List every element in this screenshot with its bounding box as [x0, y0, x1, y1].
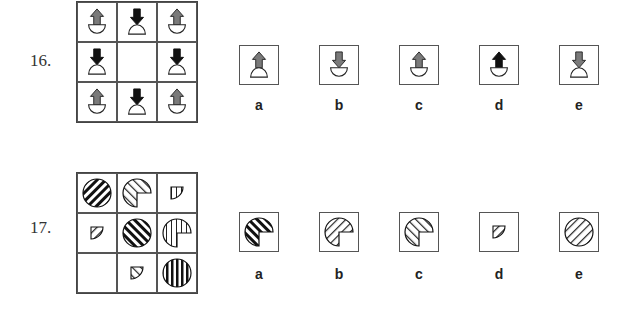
three-quarter-circle-hatched-icon [323, 216, 355, 248]
three-quarter-circle-hatched-icon [121, 177, 153, 209]
option-label-17-a: a [240, 266, 278, 282]
grid17-cell-r3c3 [157, 253, 197, 293]
grid17-cell-r1c3 [157, 173, 197, 213]
option-16-a[interactable] [239, 45, 279, 85]
option-16-c[interactable] [399, 45, 439, 85]
option-17-e[interactable] [559, 212, 599, 252]
puzzle-grid-17 [76, 172, 198, 294]
option-label-16-d: d [480, 97, 518, 113]
arrow-up-gray-cup-icon [83, 6, 111, 38]
option-17-b[interactable] [319, 212, 359, 252]
arrow-up-gray-cup-icon [405, 49, 433, 81]
grid16-cell-r1c2 [117, 2, 157, 42]
question-number-16: 16. [30, 51, 51, 71]
option-label-16-b: b [320, 97, 358, 113]
three-quarter-circle-hatched-icon [243, 216, 275, 248]
puzzle-grid-16 [76, 1, 198, 123]
grid17-cell-r3c2 [117, 253, 157, 293]
option-label-16-a: a [240, 97, 278, 113]
quarter-circle-hatched-icon [81, 217, 113, 249]
quarter-circle-hatched-icon [121, 257, 153, 289]
grid16-cell-r3c2 [117, 82, 157, 122]
grid16-cell-r1c3 [157, 2, 197, 42]
arrow-up-gray-cup-icon [163, 86, 191, 118]
option-label-17-e: e [560, 266, 598, 282]
arrow-down-black-dome-icon [123, 86, 151, 118]
option-label-17-b: b [320, 266, 358, 282]
three-quarter-circle-hatched-icon [403, 216, 435, 248]
grid17-cell-r2c2 [117, 213, 157, 253]
full-circle-hatched-icon [81, 177, 113, 209]
arrow-down-black-dome-icon [163, 46, 191, 78]
grid16-cell-r2c3 [157, 42, 197, 82]
option-label-17-d: d [480, 266, 518, 282]
grid17-cell-missing [77, 253, 117, 293]
option-17-c[interactable] [399, 212, 439, 252]
option-label-17-c: c [400, 266, 438, 282]
option-16-e[interactable] [559, 45, 599, 85]
grid16-cell-missing [117, 42, 157, 82]
arrow-up-gray-dome-icon [245, 49, 273, 81]
full-circle-hatched-icon [121, 217, 153, 249]
option-16-b[interactable] [319, 45, 359, 85]
arrow-up-gray-cup-icon [163, 6, 191, 38]
quarter-circle-hatched-icon [483, 216, 515, 248]
full-circle-hatched-icon [563, 216, 595, 248]
grid17-cell-r2c3 [157, 213, 197, 253]
grid17-cell-r1c1 [77, 173, 117, 213]
option-label-16-e: e [560, 97, 598, 113]
option-label-16-c: c [400, 97, 438, 113]
arrow-down-gray-dome-icon [565, 49, 593, 81]
arrow-down-gray-cup-icon [325, 49, 353, 81]
grid16-cell-r3c3 [157, 82, 197, 122]
grid16-cell-r1c1 [77, 2, 117, 42]
full-circle-hatched-icon [161, 257, 193, 289]
grid16-cell-r3c1 [77, 82, 117, 122]
arrow-up-black-cup-icon [485, 49, 513, 81]
three-quarter-circle-hatched-icon [161, 217, 193, 249]
question-number-17: 17. [30, 218, 51, 238]
arrow-up-gray-cup-icon [83, 86, 111, 118]
option-17-a[interactable] [239, 212, 279, 252]
grid17-cell-r2c1 [77, 213, 117, 253]
option-16-d[interactable] [479, 45, 519, 85]
grid16-cell-r2c1 [77, 42, 117, 82]
grid17-cell-r1c2 [117, 173, 157, 213]
option-17-d[interactable] [479, 212, 519, 252]
arrow-down-black-dome-icon [83, 46, 111, 78]
arrow-down-black-dome-icon [123, 6, 151, 38]
quarter-circle-hatched-icon [161, 177, 193, 209]
